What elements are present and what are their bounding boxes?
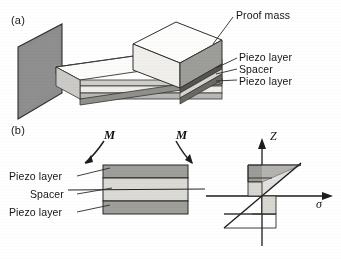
- callout-piezo-layer-bottom: Piezo layer: [239, 75, 292, 87]
- sigma-axis-label: σ: [316, 197, 322, 212]
- callout-b-piezo-layer-top: Piezo layer: [9, 170, 62, 182]
- stress-triangle-upper-spacer: [248, 182, 262, 196]
- moment-label-left: M: [104, 128, 115, 143]
- section-piezo-top: [103, 165, 188, 178]
- callout-b-piezo-layer-bottom: Piezo layer: [9, 206, 62, 218]
- moment-arrow-left: [85, 141, 104, 163]
- callout-piezo-layer-top: Piezo layer: [239, 51, 292, 63]
- section-piezo-bottom: [103, 201, 188, 214]
- callout-spacer: Spacer: [239, 63, 273, 75]
- z-axis-arrowhead: [258, 138, 266, 149]
- figure-artwork: [0, 0, 341, 259]
- panel-a-artwork: [18, 17, 237, 119]
- sigma-axis-arrowhead: [322, 192, 333, 200]
- callout-proof-mass: Proof mass: [236, 9, 290, 21]
- figure-container: (a) (b) Proof mass Piezo layer Spacer Pi…: [0, 0, 341, 259]
- panel-label-a: (a): [11, 14, 25, 26]
- panel-label-b: (b): [11, 124, 25, 136]
- stress-triangle-lower-spacer: [262, 196, 276, 214]
- moment-label-right: M: [176, 128, 187, 143]
- panel-b-artwork: [68, 138, 333, 246]
- callout-b-spacer: Spacer: [30, 188, 64, 200]
- z-axis-label: Z: [270, 129, 277, 144]
